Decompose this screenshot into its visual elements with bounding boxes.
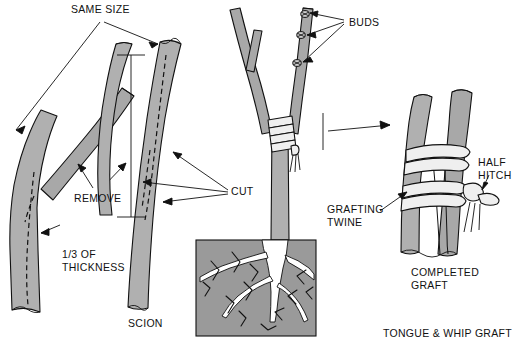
cut-arrowhead-lower <box>163 198 172 205</box>
figure-caption: TONGUE & WHIP GRAFT <box>383 327 512 339</box>
label-cut: CUT <box>231 185 254 197</box>
half-hitch-loop <box>478 193 499 205</box>
label-half-hitch-line2: HITCH <box>478 169 512 181</box>
label-remove: REMOVE <box>74 192 121 204</box>
graft-scion-piece <box>438 90 472 256</box>
label-half-hitch-line1: HALF <box>478 156 506 168</box>
label-grafting-twine-line2: TWINE <box>327 216 362 228</box>
panel-grafted-tree <box>196 8 390 336</box>
half-hitch-arrowhead <box>482 182 488 190</box>
scion-stem <box>128 40 181 309</box>
label-same-size: SAME SIZE <box>71 3 130 15</box>
rootstock-trunk <box>10 110 57 312</box>
cut-leader-upper <box>173 152 228 190</box>
label-completed-graft-line2: GRAFT <box>411 279 448 291</box>
rootstock-branch-to-remove <box>41 88 134 200</box>
twine-knot <box>291 145 299 155</box>
twine-loose-end-3 <box>479 204 480 230</box>
label-scion: SCION <box>128 317 163 329</box>
twine-loose-end-1 <box>464 202 470 232</box>
same-size-leader-right <box>104 22 158 44</box>
label-thickness-line1: 1/3 OF <box>62 248 96 260</box>
figure-canvas: SAME SIZE REMOVE CUT 1/3 OF THICKNESS SC… <box>0 0 513 350</box>
detail-arrowhead <box>380 121 390 129</box>
label-thickness-line2: THICKNESS <box>62 261 125 273</box>
same-size-leader-left <box>16 22 100 130</box>
same-size-arrowhead-right <box>149 42 158 48</box>
tree-scion-limb <box>288 8 313 134</box>
twine-tail-2 <box>295 155 296 172</box>
thickness-arrowhead <box>41 229 49 236</box>
scion-stub-piece <box>98 43 132 216</box>
label-grafting-twine-line1: GRAFTING <box>327 203 384 215</box>
cut-arrowhead-upper <box>173 152 182 159</box>
label-completed-graft-line1: COMPLETED <box>411 266 479 278</box>
cut-leader-lower <box>163 194 228 202</box>
same-size-arrowhead-left <box>16 126 25 134</box>
twine-tail-3 <box>298 154 300 170</box>
tongue-whip-graft-diagram: SAME SIZE REMOVE CUT 1/3 OF THICKNESS SC… <box>0 0 513 350</box>
twine-loose-end-2 <box>471 203 475 232</box>
label-buds: BUDS <box>349 16 379 28</box>
twine-tail-1 <box>290 155 293 172</box>
